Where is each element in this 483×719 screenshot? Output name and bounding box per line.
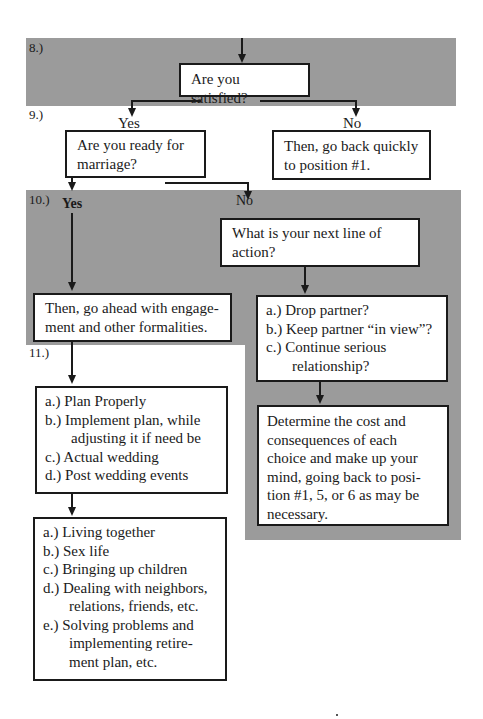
connector-no-10-h [165, 182, 249, 184]
arrow-down-icon [68, 375, 76, 384]
box-next-action: What is your next line of action? [220, 218, 420, 267]
step-11-label: 11.) [29, 345, 49, 361]
arrow-down-icon [301, 285, 309, 294]
arrow-down-icon [316, 395, 324, 404]
box-next-action-text: What is your next line of action? [232, 225, 382, 260]
plan-item: c.) Actual wedding [45, 448, 218, 467]
option-item: b.) Keep partner “in view”? [266, 320, 438, 339]
living-item: a.) Living together [43, 523, 217, 542]
connector-plan-to-living [71, 493, 73, 508]
step-9-label: 9.) [29, 107, 43, 123]
label-no-10: No [236, 193, 253, 209]
arrow-down-icon [68, 282, 76, 291]
living-item: c.) Bringing up children [43, 560, 217, 579]
option-item: c.) Continue serious relationship? [266, 338, 438, 375]
connector-yes-engagement [71, 213, 73, 283]
connector-no-9-h [260, 100, 357, 102]
stray-dot [336, 714, 338, 716]
label-yes-10: Yes [62, 196, 82, 212]
box-plan: a.) Plan Properly b.) Implement plan, wh… [35, 386, 228, 494]
arrow-down-icon [68, 507, 76, 516]
box-go-back: Then, go back quickly to position #1. [272, 130, 431, 180]
box-engagement: Then, go ahead with engage-ment and othe… [33, 293, 232, 342]
plan-item: a.) Plan Properly [45, 392, 218, 411]
connector-yes-9-h [131, 100, 201, 102]
living-item: d.) Dealing with neighbors, relations, f… [43, 579, 217, 616]
plan-item: d.) Post wedding events [45, 466, 218, 485]
connector-options-to-determine [319, 381, 321, 396]
step-8-label: 8.) [29, 40, 43, 56]
living-item: b.) Sex life [43, 542, 217, 561]
connector-top [241, 38, 243, 55]
box-engagement-text: Then, go ahead with engage-ment and othe… [45, 300, 219, 335]
step-10-label: 10.) [29, 192, 50, 208]
living-item: e.) Solving problems and implementing re… [43, 616, 217, 672]
box-go-back-text: Then, go back quickly to position #1. [284, 138, 418, 173]
connector-engagement-to-plan [71, 341, 73, 376]
box-living: a.) Living together b.) Sex life c.) Bri… [33, 517, 227, 681]
box-options: a.) Drop partner? b.) Keep partner “in v… [256, 295, 448, 382]
box-determine: Determine the cost and consequences of e… [257, 405, 449, 526]
arrow-down-icon [68, 182, 76, 191]
plan-item: b.) Implement plan, while adjusting it i… [45, 411, 218, 448]
box-ready-for-marriage: Are you ready for marriage? [65, 130, 206, 178]
arrow-down-icon [238, 54, 246, 63]
option-item: a.) Drop partner? [266, 301, 438, 320]
connector-next-to-options [304, 266, 306, 286]
box-satisfied: Are you satisfied? [179, 63, 310, 97]
box-determine-text: Determine the cost and consequences of e… [267, 413, 421, 522]
box-ready-text: Are you ready for marriage? [77, 137, 184, 172]
